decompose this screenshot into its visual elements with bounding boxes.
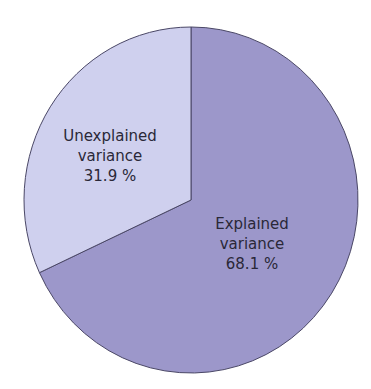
label-explained-value: 68.1 % — [192, 254, 312, 274]
label-explained-line1: Explained — [192, 214, 312, 234]
label-unexplained: Unexplained variance 31.9 % — [50, 126, 170, 186]
label-unexplained-line1: Unexplained — [50, 126, 170, 146]
label-explained-line2: variance — [192, 234, 312, 254]
label-explained: Explained variance 68.1 % — [192, 214, 312, 274]
label-unexplained-line2: variance — [50, 146, 170, 166]
label-unexplained-value: 31.9 % — [50, 166, 170, 186]
pie-chart — [0, 0, 371, 389]
